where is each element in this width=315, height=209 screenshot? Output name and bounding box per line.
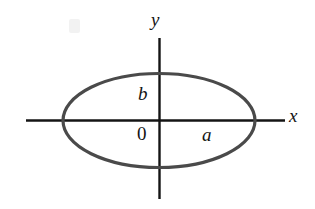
y-axis-label: y [151,10,159,29]
origin-label: 0 [137,124,147,143]
ellipse-diagram-svg [0,0,315,209]
semi-major-axis-label: a [202,125,212,144]
semi-minor-axis-label: b [138,84,148,103]
x-axis-label: x [289,106,297,125]
figure-canvas: y x b a 0 [0,0,315,209]
